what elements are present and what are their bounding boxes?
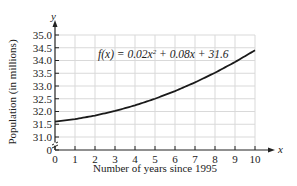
x-axis-symbol: x bbox=[277, 143, 283, 155]
y-tick-label: 32.5 bbox=[33, 93, 53, 105]
equation-annotation: f(x) = 0.02x2 + 0.08x + 31.6 bbox=[98, 48, 229, 61]
x-axis-label: Number of years since 1995 bbox=[93, 162, 218, 174]
y-tick-label: 31.0 bbox=[33, 131, 53, 143]
y-tick-label: 33.0 bbox=[33, 80, 53, 92]
x-tick-label: 10 bbox=[250, 153, 262, 165]
y-tick-label: 35.0 bbox=[33, 29, 53, 41]
y-tick-label: 33.5 bbox=[33, 67, 53, 79]
y-tick-label: 34.0 bbox=[33, 54, 53, 66]
x-tick-label: 9 bbox=[232, 153, 238, 165]
y-axis-label: Population (in millions) bbox=[6, 39, 19, 144]
y-tick-label: 32.0 bbox=[33, 105, 53, 117]
chart: 031.031.532.032.533.033.534.034.535.0 01… bbox=[0, 0, 297, 186]
y-tick-label: 31.5 bbox=[33, 118, 53, 130]
y-tick-label: 34.5 bbox=[33, 42, 53, 54]
x-tick-label: 0 bbox=[52, 153, 58, 165]
x-tick-label: 1 bbox=[72, 153, 78, 165]
x-axis-arrow-icon bbox=[268, 148, 275, 153]
y-axis-symbol: y bbox=[50, 10, 56, 22]
